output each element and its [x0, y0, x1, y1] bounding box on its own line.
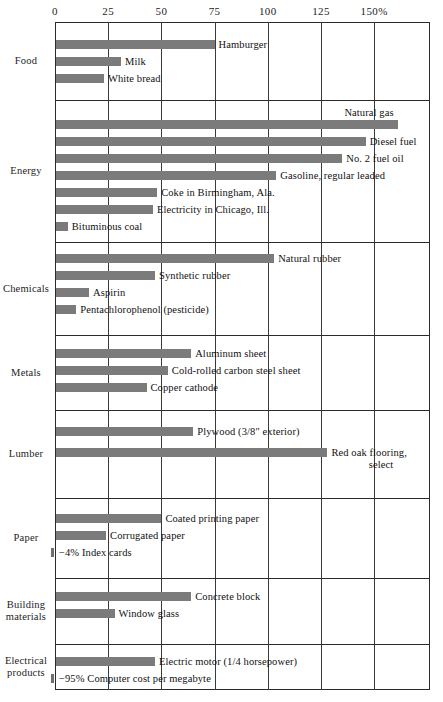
bar-label: Coke in Birmingham, Ala.: [161, 187, 275, 198]
axis-tick-label-0: 0: [52, 5, 58, 17]
bar-label: No. 2 fuel oil: [346, 153, 403, 164]
bar: [56, 383, 147, 392]
axis-tick-label-25: 25: [102, 5, 114, 17]
bar-label: Plywood (3/8″ exterior): [197, 426, 299, 437]
section-divider-chemicals: [55, 242, 430, 243]
bar: [56, 205, 153, 214]
bar: [56, 271, 155, 280]
section-divider-energy: [55, 100, 430, 101]
bar: [56, 427, 193, 436]
axis-tick-label-150: 150%: [361, 5, 388, 17]
bar: [56, 657, 155, 666]
bar: [56, 609, 115, 618]
category-label-food: Food: [0, 55, 52, 67]
bar-label: −95% Computer cost per megabyte: [59, 673, 211, 684]
bar-label: Gasoline, regular leaded: [280, 170, 385, 181]
bar-label: Electric motor (1/4 horsepower): [159, 656, 297, 667]
bar: [56, 349, 191, 358]
category-label-line1: Electrical: [0, 655, 52, 667]
bar: [56, 531, 106, 540]
bar-label: Concrete block: [195, 591, 260, 602]
bar-label: Natural rubber: [278, 253, 341, 264]
plot-area: HamburgerMilkWhite breadNatural gasDiese…: [55, 22, 430, 690]
section-divider-electrical-products: [55, 644, 430, 645]
bar: [56, 514, 161, 523]
category-label-line1: Building: [0, 599, 52, 611]
bar: [56, 57, 121, 66]
bar-label: Corrugated paper: [110, 530, 185, 541]
bar: [56, 254, 274, 263]
bar-label-line2: select: [331, 459, 393, 471]
bar-label-line1: Red oak flooring,: [331, 447, 406, 458]
category-label-lumber: Lumber: [0, 448, 52, 460]
category-label-electrical-products: Electricalproducts: [0, 655, 52, 678]
bar-label: Coated printing paper: [165, 513, 259, 524]
frame-right-border: [429, 22, 430, 690]
bar-label: Hamburger: [219, 39, 268, 50]
bar-label: Window glass: [119, 608, 180, 619]
bar-label: Pentachlorophenol (pesticide): [80, 304, 209, 315]
bar-label: Milk: [125, 56, 146, 67]
bar: [56, 74, 104, 83]
bar-label: Cold-rolled carbon steel sheet: [172, 365, 301, 376]
bar: [56, 222, 68, 231]
bar-label: Electricity in Chicago, Ill.: [157, 204, 269, 215]
category-label-line2: products: [0, 667, 52, 679]
bar-label: Synthetic rubber: [159, 270, 230, 281]
x-axis-tick-labels: 0255075100125150%: [0, 0, 443, 22]
bar-label: Aspirin: [93, 287, 125, 298]
bar-chart: 0255075100125150% HamburgerMilkWhite bre…: [0, 0, 443, 702]
bar: [56, 154, 342, 163]
bar-label: Natural gas: [344, 107, 393, 118]
bar: [56, 120, 398, 129]
bar-label: −4% Index cards: [59, 547, 132, 558]
bar: [56, 171, 276, 180]
axis-tick-label-125: 125: [312, 5, 330, 17]
bar-label: Red oak flooring,select: [331, 447, 411, 471]
category-label-building-materials: Buildingmaterials: [0, 599, 52, 622]
section-divider-building-materials: [55, 578, 430, 579]
category-label-chemicals: Chemicals: [0, 283, 52, 295]
category-label-paper: Paper: [0, 532, 52, 544]
bar: [56, 40, 215, 49]
bar: [56, 137, 366, 146]
category-label-line2: materials: [0, 611, 52, 623]
bar: [56, 448, 327, 457]
bar-label: Diesel fuel: [370, 136, 417, 147]
axis-tick-label-100: 100: [259, 5, 277, 17]
bar-label: Copper cathode: [151, 382, 219, 393]
bar: [51, 548, 54, 557]
section-divider-lumber: [55, 410, 430, 411]
axis-tick-label-50: 50: [155, 5, 167, 17]
bar-label: White bread: [108, 73, 161, 84]
bar: [56, 188, 157, 197]
section-divider-metals: [55, 335, 430, 336]
bar-label: Bituminous coal: [72, 221, 143, 232]
bar-label: Aluminum sheet: [195, 348, 266, 359]
bar: [56, 305, 76, 314]
bar: [56, 366, 168, 375]
bar: [56, 288, 89, 297]
category-label-metals: Metals: [0, 367, 52, 379]
category-label-energy: Energy: [0, 165, 52, 177]
axis-tick-label-75: 75: [209, 5, 221, 17]
bar: [56, 592, 191, 601]
section-divider-paper: [55, 498, 430, 499]
